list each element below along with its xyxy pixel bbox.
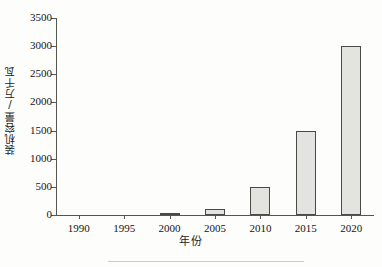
y-tick-label: 3000 (30, 39, 52, 52)
bar (160, 213, 180, 215)
y-tick-label: 0 (47, 208, 53, 221)
y-tick: 1000 (56, 159, 57, 160)
y-axis-title: 装机容量/万千瓦 (2, 36, 18, 186)
y-tick: 1500 (56, 131, 57, 132)
bar (341, 46, 361, 215)
x-tick-mark (79, 215, 80, 219)
x-tick-mark (260, 215, 261, 219)
bar (296, 131, 316, 215)
x-axis-title: 年份 (0, 232, 382, 248)
bar (250, 187, 270, 215)
y-tick: 3000 (56, 46, 57, 47)
y-tick: 3500 (56, 18, 57, 19)
x-tick-mark (215, 215, 216, 219)
x-tick-mark (124, 215, 125, 219)
y-tick-label: 1000 (30, 152, 52, 165)
x-tick-mark (170, 215, 171, 219)
y-tick-label: 2500 (30, 67, 52, 80)
plot-area: 0500100015002000250030003500 19901995200… (56, 18, 374, 216)
y-tick: 500 (56, 187, 57, 188)
bar-chart-figure: 装机容量/万千瓦 0500100015002000250030003500 19… (0, 0, 382, 267)
caption-rule (108, 261, 304, 262)
y-tick-label: 3500 (30, 11, 52, 24)
y-tick: 0 (56, 215, 57, 216)
bar (205, 209, 225, 215)
x-tick-mark (351, 215, 352, 219)
y-tick: 2500 (56, 74, 57, 75)
y-tick: 2000 (56, 102, 57, 103)
y-tick-label: 500 (36, 180, 53, 193)
y-tick-label: 1500 (30, 124, 52, 137)
x-tick-mark (306, 215, 307, 219)
y-tick-label: 2000 (30, 95, 52, 108)
